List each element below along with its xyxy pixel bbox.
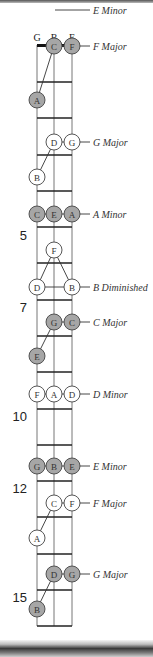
chord-label-g-major: G Major [93, 137, 128, 148]
chord-label-b-diminished: B Diminished [93, 282, 149, 293]
note-label-b: B [34, 605, 40, 615]
fret-number-15: 15 [13, 590, 27, 605]
note-label-a: A [34, 96, 41, 106]
note-label-b: B [69, 283, 75, 293]
note-label-e: E [69, 462, 75, 472]
note-label-c: C [34, 210, 40, 220]
note-label-c: C [69, 318, 75, 328]
fretboard-diagram: GBE57101215E MinorCFAF MajorDGBG MajorCE… [0, 0, 153, 657]
note-label-g: G [34, 462, 41, 472]
chord-connector-line [37, 46, 54, 100]
note-label-c: C [51, 42, 57, 52]
chord-label-e-minor: E Minor [92, 461, 127, 472]
fret-number-7: 7 [20, 300, 27, 315]
note-label-a: A [51, 390, 58, 400]
note-label-b: B [51, 462, 57, 472]
note-label-b: B [34, 173, 40, 183]
note-label-d: D [34, 283, 41, 293]
note-label-d: D [69, 390, 76, 400]
fret-number-5: 5 [20, 228, 27, 243]
chord-label-f-major: F Major [92, 41, 127, 52]
note-label-e: E [51, 210, 57, 220]
note-label-d: D [51, 570, 58, 580]
chord-label-d-minor: D Minor [92, 389, 128, 400]
chord-label-e-minor: E Minor [92, 5, 127, 16]
note-label-g: G [69, 138, 76, 148]
note-label-d: D [51, 138, 58, 148]
fret-number-12: 12 [13, 481, 27, 496]
fret-number-10: 10 [13, 409, 27, 424]
chord-label-c-major: C Major [93, 317, 127, 328]
note-label-f: F [69, 499, 74, 509]
note-label-f: F [69, 42, 74, 52]
note-label-f: F [51, 246, 56, 256]
note-label-g: G [69, 570, 76, 580]
note-label-a: A [34, 534, 41, 544]
chord-label-g-major: G Major [93, 569, 128, 580]
page-bottom-edge [0, 640, 153, 657]
note-label-g: G [51, 318, 58, 328]
note-label-a: A [69, 210, 76, 220]
note-label-f: F [34, 390, 39, 400]
note-label-c: C [51, 499, 57, 509]
string-name-g: G [33, 32, 40, 43]
note-label-e: E [34, 352, 40, 362]
chord-label-f-major: F Major [92, 498, 127, 509]
chord-label-a-minor: A Minor [92, 209, 127, 220]
